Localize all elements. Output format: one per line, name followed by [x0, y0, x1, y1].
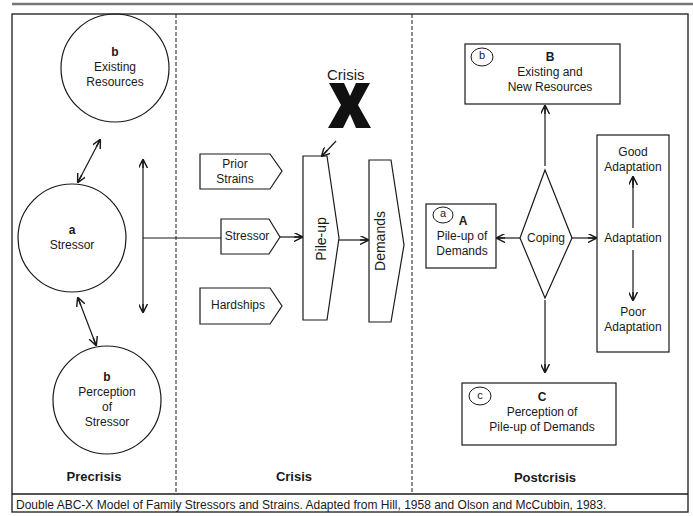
- crisis-to-pileup-arrow: [322, 141, 336, 156]
- phase-precrisis: Precrisis: [44, 469, 144, 484]
- phase-crisis: Crisis: [244, 469, 344, 484]
- resources-box-label: B Existing and New Resources: [490, 50, 610, 95]
- phase-postcrisis: Postcrisis: [490, 470, 600, 485]
- stressor-letter: a: [22, 223, 122, 238]
- stressor-label: a Stressor: [22, 223, 122, 253]
- existing-resources-line2: Resources: [65, 75, 165, 90]
- good-adaptation-label: Good Adaptation: [597, 145, 669, 175]
- pileup-box-line1: Pile-up of: [426, 229, 498, 244]
- resources-box-line1: Existing and: [490, 65, 610, 80]
- figure-caption: Double ABC-X Model of Family Stressors a…: [16, 498, 606, 512]
- existing-resources-line1: Existing: [65, 60, 165, 75]
- hardships-label: Hardships: [200, 298, 276, 313]
- poor-adaptation-label: Poor Adaptation: [597, 305, 669, 335]
- perception-label: b Perception of Stressor: [57, 370, 157, 430]
- perception-line1: Perception: [57, 385, 157, 400]
- perception-letter: b: [57, 370, 157, 385]
- perception-box-line1: Perception of: [482, 405, 602, 420]
- prior-strains-label: Prior Strains: [200, 157, 270, 187]
- prior-strains-line1: Prior: [200, 157, 270, 172]
- resources-stressor-arrow: [78, 140, 100, 182]
- stressor-line1: Stressor: [22, 238, 122, 253]
- prior-strains-line2: Strains: [200, 172, 270, 187]
- pileup-box-letter: A: [456, 214, 470, 229]
- existing-resources-letter: b: [65, 45, 165, 60]
- existing-resources-label: b Existing Resources: [65, 45, 165, 90]
- pileup-box-label: Pile-up of Demands: [426, 229, 498, 259]
- poor-adaptation-line2: Adaptation: [597, 320, 669, 335]
- pileup-label: Pile-up: [313, 199, 329, 279]
- resources-box-letter: B: [490, 50, 610, 65]
- adaptation-label: Adaptation: [597, 231, 669, 246]
- double-abcx-model-diagram: b Existing Resources a Stressor b Percep…: [0, 0, 693, 516]
- badge-a: a: [437, 207, 449, 219]
- perception-line3: Stressor: [57, 415, 157, 430]
- perception-box-letter: C: [482, 390, 602, 405]
- resources-box-line2: New Resources: [490, 80, 610, 95]
- pileup-box-line2: Demands: [426, 244, 498, 259]
- perception-box-line2: Pile-up of Demands: [482, 420, 602, 435]
- coping-label: Coping: [520, 231, 572, 246]
- badge-b: b: [476, 49, 488, 61]
- perception-line2: of: [57, 400, 157, 415]
- perception-box-label: C Perception of Pile-up of Demands: [482, 390, 602, 435]
- crisis-x-symbol: [328, 83, 371, 128]
- stressor-input-label: Stressor: [221, 229, 273, 244]
- good-adaptation-line1: Good: [597, 145, 669, 160]
- poor-adaptation-line1: Poor: [597, 305, 669, 320]
- stressor-perception-arrow: [78, 298, 96, 345]
- crisis-label: Crisis: [327, 66, 365, 83]
- demands-label: Demands: [372, 201, 388, 281]
- good-adaptation-line2: Adaptation: [597, 160, 669, 175]
